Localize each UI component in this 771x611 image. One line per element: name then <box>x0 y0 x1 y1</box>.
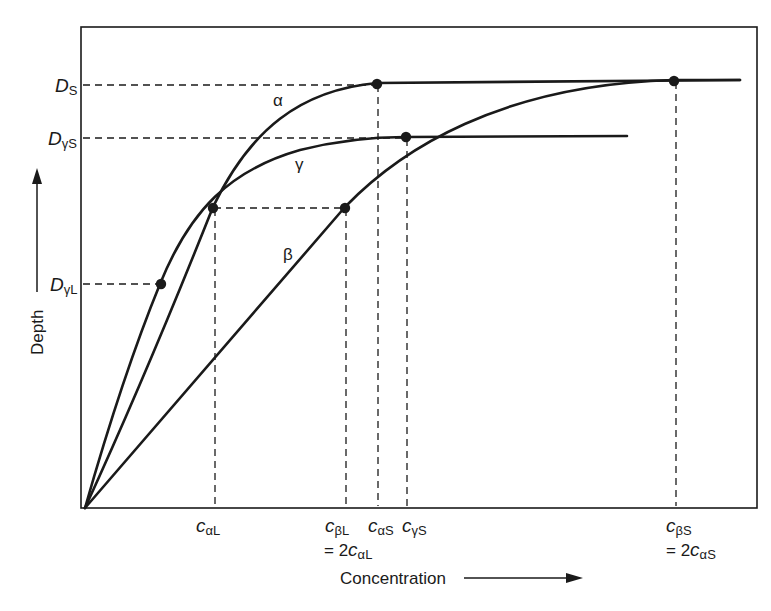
xlabel-cas: cαS <box>368 515 394 538</box>
ylabel-dgl: DγL <box>50 274 77 297</box>
xlabel-cgs: cγS <box>402 515 427 538</box>
plot-frame <box>81 27 757 508</box>
dot-gamma-dgl <box>156 279 166 289</box>
curve-alpha <box>85 80 740 508</box>
marker-points <box>156 76 679 289</box>
guide-lines <box>83 82 676 506</box>
dot-beta-cbl <box>340 203 350 213</box>
label-alpha: α <box>273 91 283 110</box>
dot-gamma-cgs <box>401 132 411 142</box>
dot-beta-cbs <box>669 76 679 86</box>
ylabel-ds: DS <box>55 75 78 98</box>
xlabel-cal: cαL <box>196 515 220 538</box>
xlabel-cbs-eq: = 2cαS <box>666 539 716 562</box>
y-axis-arrow-icon <box>32 168 42 184</box>
dot-alpha-cal <box>208 203 218 213</box>
xlabel-cbl-eq: = 2cαL <box>324 539 372 562</box>
ylabel-dgs: DγS <box>48 128 77 151</box>
depth-concentration-diagram: α γ β DS DγS DγL cαL cβL = 2cαL cαS cγS … <box>0 0 771 611</box>
xlabel-cbl: cβL <box>325 515 349 538</box>
x-axis-arrow-icon <box>566 573 583 583</box>
label-gamma: γ <box>295 155 304 174</box>
y-axis-title: Depth <box>28 310 47 355</box>
xlabel-cbs: cβS <box>666 515 692 538</box>
label-beta: β <box>283 245 293 264</box>
x-axis-title: Concentration <box>340 569 446 588</box>
dot-alpha-cas <box>372 79 382 89</box>
curve-beta <box>85 80 740 508</box>
